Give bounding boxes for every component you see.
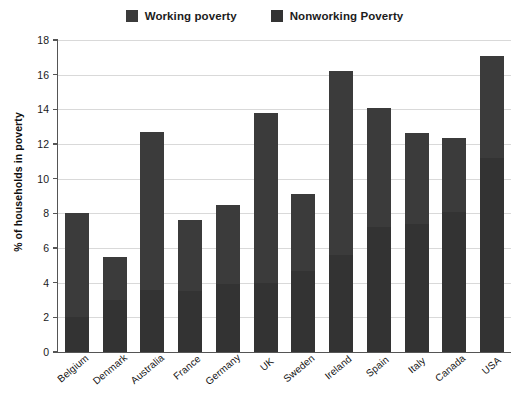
bar-segment-working-poverty[interactable] <box>442 138 466 212</box>
y-axis-tick-label: 10 <box>29 173 53 185</box>
bar-segment-nonworking-poverty[interactable] <box>216 284 240 352</box>
bar-segment-working-poverty[interactable] <box>103 257 127 300</box>
x-axis-label: Sweden <box>282 352 317 384</box>
x-axis-label: Ireland <box>323 353 354 382</box>
y-axis-tick: 10 <box>29 173 58 185</box>
y-axis-tick: 4 <box>29 277 58 289</box>
x-axis-label-cell: Italy <box>397 353 435 397</box>
x-axis-label: Canada <box>433 352 467 383</box>
bar-stack[interactable] <box>367 108 391 352</box>
x-axis-label: Italy <box>406 355 428 376</box>
bar-segment-working-poverty[interactable] <box>65 213 89 317</box>
bar-stack[interactable] <box>291 194 315 352</box>
bar-stack[interactable] <box>329 71 353 352</box>
x-axis-label: Belgium <box>55 352 90 384</box>
x-axis-label-cell: Denmark <box>95 353 133 397</box>
y-axis-tick: 2 <box>29 311 58 323</box>
bar-segment-nonworking-poverty[interactable] <box>329 255 353 352</box>
y-axis-tick: 12 <box>29 138 58 150</box>
y-axis-tick: 8 <box>29 207 58 219</box>
x-axis-label-cell: France <box>170 353 208 397</box>
x-axis-label-cell: Australia <box>133 353 171 397</box>
bar-column <box>171 40 209 352</box>
bar-stack[interactable] <box>103 257 127 352</box>
bar-column <box>58 40 96 352</box>
bar-segment-working-poverty[interactable] <box>480 56 504 158</box>
bar-segment-working-poverty[interactable] <box>367 108 391 228</box>
x-axis-label: Germany <box>203 352 242 387</box>
bar-segment-working-poverty[interactable] <box>178 220 202 291</box>
bar-segment-working-poverty[interactable] <box>140 132 164 290</box>
bar-stack[interactable] <box>405 133 429 352</box>
bar-column <box>473 40 511 352</box>
bar-column <box>360 40 398 352</box>
bar-segment-working-poverty[interactable] <box>291 194 315 270</box>
x-axis-label: Denmark <box>90 352 129 387</box>
x-axis-label-cell: Ireland <box>321 353 359 397</box>
bar-segment-nonworking-poverty[interactable] <box>178 291 202 352</box>
bar-segment-nonworking-poverty[interactable] <box>291 271 315 352</box>
x-axis-label: Spain <box>364 354 391 379</box>
x-axis-label-cell: USA <box>472 353 510 397</box>
bar-stack[interactable] <box>442 138 466 352</box>
y-axis-tick: 16 <box>29 69 58 81</box>
bar-stack[interactable] <box>254 113 278 352</box>
legend-swatch-icon <box>271 10 283 22</box>
y-axis-tick: 18 <box>29 34 58 46</box>
legend-swatch-icon <box>126 10 138 22</box>
x-axis-label-cell: Belgium <box>57 353 95 397</box>
legend-label: Nonworking Poverty <box>290 10 404 22</box>
bar-segment-nonworking-poverty[interactable] <box>65 317 89 352</box>
y-axis-tick-label: 0 <box>29 346 53 358</box>
bar-segment-nonworking-poverty[interactable] <box>442 212 466 352</box>
bar-column <box>322 40 360 352</box>
y-axis-tick-label: 2 <box>29 311 53 323</box>
y-axis-tick-label: 4 <box>29 277 53 289</box>
bar-segment-working-poverty[interactable] <box>216 205 240 285</box>
y-axis-tick-label: 8 <box>29 207 53 219</box>
plot-area: 024681012141618 <box>57 40 511 353</box>
bar-column <box>398 40 436 352</box>
y-axis-tick-label: 14 <box>29 103 53 115</box>
bar-column <box>247 40 285 352</box>
y-axis-tick-label: 12 <box>29 138 53 150</box>
bar-column <box>285 40 323 352</box>
x-axis-label: Australia <box>129 352 167 386</box>
bar-stack[interactable] <box>178 220 202 352</box>
bar-stack[interactable] <box>140 132 164 352</box>
bar-segment-nonworking-poverty[interactable] <box>405 224 429 352</box>
bar-segment-working-poverty[interactable] <box>254 113 278 283</box>
x-axis-label-cell: UK <box>246 353 284 397</box>
x-axis-labels: BelgiumDenmarkAustraliaFranceGermanyUKSw… <box>57 353 510 397</box>
stacked-bar-chart: Working povertyNonworking Poverty % of h… <box>0 0 529 397</box>
y-axis-tick-label: 6 <box>29 242 53 254</box>
bar-segment-working-poverty[interactable] <box>405 133 429 224</box>
bar-group <box>58 40 511 352</box>
bar-segment-nonworking-poverty[interactable] <box>480 158 504 352</box>
bar-stack[interactable] <box>216 205 240 352</box>
x-axis-label-cell: Spain <box>359 353 397 397</box>
bar-column <box>134 40 172 352</box>
y-axis-tick: 6 <box>29 242 58 254</box>
bar-column <box>436 40 474 352</box>
bar-segment-nonworking-poverty[interactable] <box>140 290 164 352</box>
x-axis-label-cell: Germany <box>208 353 246 397</box>
legend-entry[interactable]: Working poverty <box>126 10 237 22</box>
y-axis-tick: 14 <box>29 103 58 115</box>
bar-segment-working-poverty[interactable] <box>329 71 353 255</box>
x-axis-label: UK <box>257 356 275 373</box>
x-axis-label: France <box>171 353 202 382</box>
bar-segment-nonworking-poverty[interactable] <box>367 227 391 352</box>
y-axis-tick-label: 16 <box>29 69 53 81</box>
bar-column <box>96 40 134 352</box>
bar-stack[interactable] <box>65 213 89 352</box>
bar-segment-nonworking-poverty[interactable] <box>254 283 278 352</box>
x-axis-label: USA <box>480 355 503 377</box>
bar-stack[interactable] <box>480 56 504 352</box>
x-axis-label-cell: Sweden <box>284 353 322 397</box>
legend-entry[interactable]: Nonworking Poverty <box>271 10 404 22</box>
y-axis-tick: 0 <box>29 346 58 358</box>
bar-segment-nonworking-poverty[interactable] <box>103 300 127 352</box>
legend-label: Working poverty <box>145 10 237 22</box>
y-axis-title: % of households in poverty <box>12 82 24 282</box>
